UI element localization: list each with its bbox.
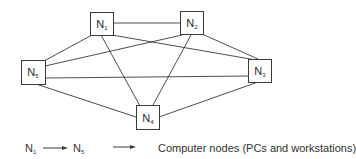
node-label-n4: N4	[136, 106, 160, 134]
node-label-n2: N2	[180, 11, 204, 39]
edge-n5-n3	[45, 76, 248, 78]
legend-description: Computer nodes (PCs and workstations)	[158, 142, 356, 154]
legend: N1 N5 Computer nodes (PCs and workstatio…	[0, 140, 342, 158]
node-label-n5: N5	[21, 60, 45, 88]
edge-n5-n4	[36, 84, 136, 117]
node-label-n3: N3	[248, 59, 272, 87]
legend-range-start: N1	[25, 142, 36, 155]
legend-range-end: N5	[73, 142, 84, 155]
node-label-n1: N1	[90, 12, 114, 40]
edge-n3-n4	[159, 82, 258, 117]
edges	[36, 23, 258, 117]
